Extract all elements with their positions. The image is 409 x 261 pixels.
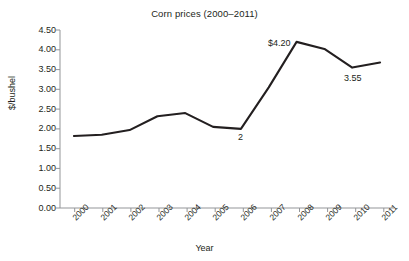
- corn-prices-chart: Corn prices (2000–2011) $/bushel 4.50 4.…: [0, 0, 409, 261]
- x-tick-label: 2003: [155, 203, 174, 222]
- x-axis-tick-labels: 2000 2001 2002 2003 2004 2005 2006 2007 …: [0, 0, 409, 261]
- x-tick-label: 2002: [127, 203, 146, 222]
- data-label-2006: 2: [238, 133, 243, 142]
- x-tick-label: 2010: [352, 203, 371, 222]
- x-tick-label: 2004: [183, 203, 202, 222]
- x-tick-label: 2000: [71, 203, 90, 222]
- data-label-2010: 3.55: [344, 74, 362, 83]
- x-tick-label: 2007: [268, 203, 287, 222]
- data-label-2008: $4.20: [268, 39, 291, 48]
- x-tick-label: 2011: [380, 203, 399, 222]
- x-tick-label: 2001: [99, 203, 118, 222]
- x-tick-label: 2006: [239, 203, 258, 222]
- x-tick-label: 2005: [211, 203, 230, 222]
- x-axis-title: Year: [0, 243, 409, 253]
- x-tick-label: 2008: [296, 203, 315, 222]
- x-tick-label: 2009: [324, 203, 343, 222]
